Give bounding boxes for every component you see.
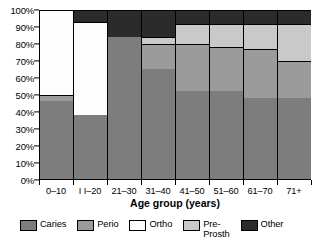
bar-segment-caries[interactable] [74,115,107,179]
x-axis-tick-mark [39,180,40,185]
x-axis-tick-mark [175,180,176,185]
legend-label: Caries [40,219,66,229]
bar-segment-caries[interactable] [244,98,277,179]
y-axis-tick-label: 50% [16,90,34,101]
legend-item[interactable]: Caries [20,219,66,231]
x-axis-tick-mark [107,180,108,185]
bar-segment-caries[interactable] [278,98,311,179]
y-axis-tick-label: 30% [16,124,34,135]
plot-area [39,10,311,180]
y-axis-tick-label: 10% [16,158,34,169]
legend-label: Other [261,219,284,229]
bar-segment-pre-prosth[interactable] [278,24,311,61]
bar-segment-other[interactable] [176,10,209,24]
bar-segment-other[interactable] [108,10,141,37]
bar-segment-caries[interactable] [142,69,175,179]
bar-segment-perio[interactable] [210,47,243,91]
x-axis-tick-mark [311,180,312,185]
legend-item[interactable]: Pre- Prosth [183,219,229,239]
bar-segment-pre-prosth[interactable] [244,24,277,49]
legend-swatch-icon [183,220,200,231]
legend-swatch-icon [77,220,94,231]
y-axis-tick-label: 100% [11,5,35,16]
y-axis-tick-label: 20% [16,141,34,152]
bar-column[interactable] [244,10,278,179]
bar-segment-ortho[interactable] [40,10,73,95]
bar-segment-ortho[interactable] [74,22,107,115]
bar-segment-perio[interactable] [40,95,73,102]
chart-legend: CariesPerioOrthoPre- ProsthOther [20,219,310,241]
y-axis-tick-label: 60% [16,73,34,84]
bar-segment-other[interactable] [74,10,107,22]
y-axis-tick-label: 90% [16,22,34,33]
stacked-bar-chart: 0%10%20%30%40%50%60%70%80%90%100% 0–10I … [0,0,320,241]
bar-column[interactable] [40,10,74,179]
x-axis-tick-mark [243,180,244,185]
legend-item[interactable]: Ortho [129,219,172,231]
bar-segment-caries[interactable] [210,91,243,179]
bar-column[interactable] [142,10,176,179]
y-axis: 0%10%20%30%40%50%60%70%80%90%100% [0,0,39,190]
legend-swatch-icon [20,220,37,231]
y-axis-tick-label: 40% [16,107,34,118]
x-axis-tick-mark [141,180,142,185]
x-axis-title: Age group (years) [39,197,311,209]
bar-segment-caries[interactable] [40,101,73,179]
bar-column[interactable] [278,10,311,179]
bar-segment-other[interactable] [210,10,243,24]
bar-segment-perio[interactable] [278,61,311,98]
bar-segment-pre-prosth[interactable] [142,37,175,44]
bar-segment-caries[interactable] [108,37,141,179]
x-axis-tick-mark [209,180,210,185]
bar-segment-other[interactable] [244,10,277,24]
bar-column[interactable] [210,10,244,179]
bar-segment-perio[interactable] [142,44,175,69]
bar-column[interactable] [108,10,142,179]
bar-column[interactable] [74,10,108,179]
x-axis-tick-mark [277,180,278,185]
y-axis-tick-label: 70% [16,56,34,67]
bar-segment-perio[interactable] [176,44,209,91]
bar-series-container [40,10,311,179]
bar-segment-perio[interactable] [244,49,277,98]
bar-segment-caries[interactable] [176,91,209,179]
bar-segment-pre-prosth[interactable] [210,24,243,48]
legend-label: Perio [97,219,118,229]
legend-item[interactable]: Perio [77,219,118,231]
legend-swatch-icon [129,220,146,231]
y-axis-tick-label: 0% [21,175,34,186]
y-axis-tick-label: 80% [16,39,34,50]
bar-segment-other[interactable] [278,10,311,24]
legend-label: Pre- Prosth [203,219,229,239]
bar-column[interactable] [176,10,210,179]
legend-swatch-icon [241,220,258,231]
x-axis-tick-mark [73,180,74,185]
bar-segment-other[interactable] [142,10,175,37]
bar-segment-pre-prosth[interactable] [176,24,209,44]
legend-label: Ortho [149,219,172,229]
legend-item[interactable]: Other [241,219,284,231]
